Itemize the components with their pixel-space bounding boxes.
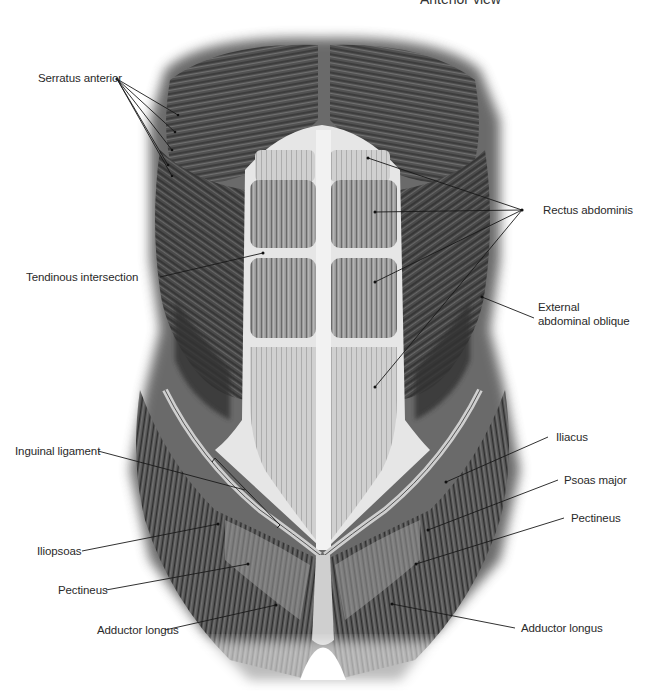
label-pectineus-right: Pectineus [571, 511, 621, 525]
label-psoas-major: Psoas major [564, 473, 627, 487]
label-pectineus-left: Pectineus [58, 583, 108, 597]
label-external-oblique-2: abdominal oblique [538, 314, 630, 328]
linea-alba [316, 130, 331, 550]
label-rectus-abdominis: Rectus abdominis [543, 203, 633, 217]
label-tendinous-intersection: Tendinous intersection [26, 270, 138, 284]
label-serratus-anterior: Serratus anterior [38, 71, 122, 85]
label-adductor-longus-right: Adductor longus [521, 621, 603, 635]
label-iliopsoas: Iliopsoas [37, 544, 82, 558]
anatomy-diagram: Anterior view [0, 0, 645, 691]
label-external-oblique-1: External [538, 300, 579, 314]
label-iliacus: Iliacus [556, 430, 588, 444]
label-inguinal-ligament: Inguinal ligament [15, 444, 100, 458]
label-adductor-longus-left: Adductor longus [97, 623, 179, 637]
